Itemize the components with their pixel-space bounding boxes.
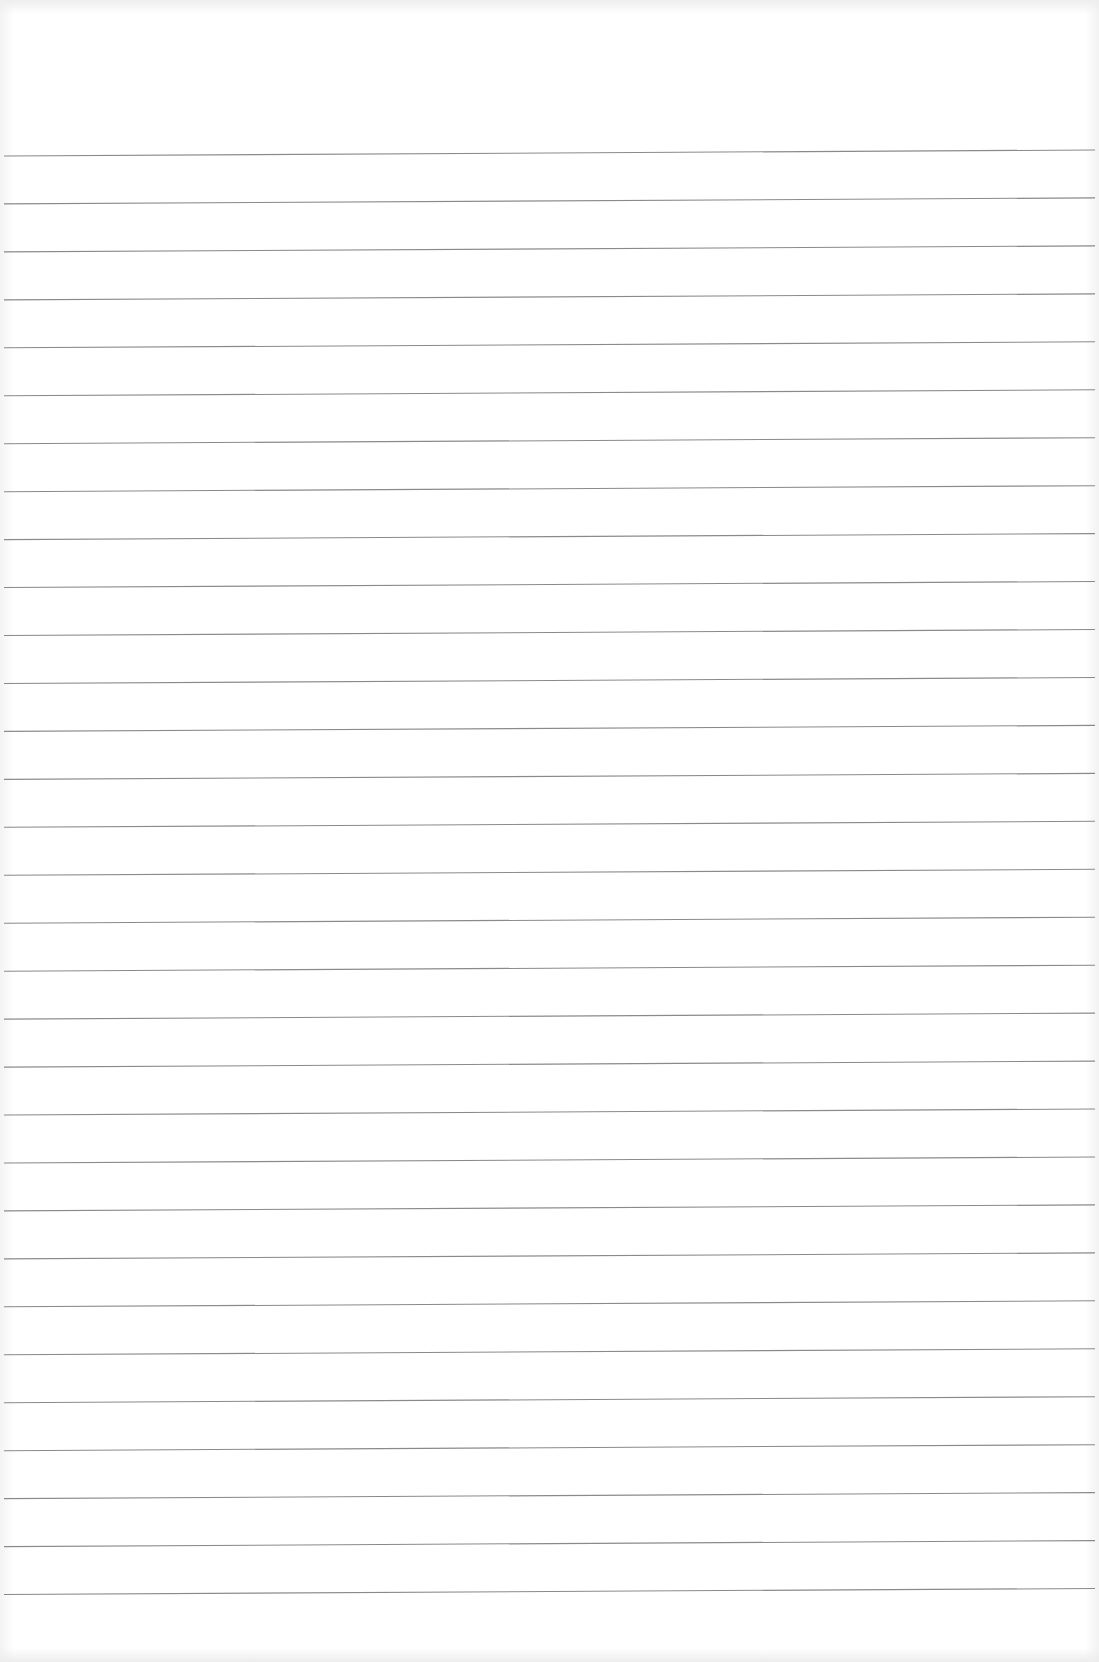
ruled-line [4, 678, 1095, 684]
ruled-line [4, 773, 1095, 779]
ruled-line [4, 1061, 1095, 1067]
ruled-line [4, 917, 1095, 923]
ruled-line [4, 869, 1095, 875]
ruled-line [4, 246, 1095, 252]
ruled-line [4, 1493, 1095, 1499]
ruled-line [4, 1109, 1095, 1115]
ruled-line [4, 390, 1095, 396]
ruled-line [4, 294, 1095, 300]
ruled-line [4, 1589, 1095, 1595]
ruled-line [4, 342, 1095, 348]
ruled-line [4, 725, 1095, 731]
ruled-line [4, 1157, 1095, 1163]
ruled-line [4, 1013, 1095, 1019]
ruled-line [4, 582, 1095, 588]
ruled-line [4, 965, 1095, 971]
ruled-line [4, 1445, 1095, 1451]
ruled-line [4, 1349, 1095, 1355]
ruled-line [4, 1397, 1095, 1403]
ruled-lines-svg [0, 0, 1099, 1662]
ruled-line [4, 534, 1095, 540]
ruled-line [4, 821, 1095, 827]
page-bottom-edge-shadow [0, 1648, 1099, 1662]
ruled-line [4, 486, 1095, 492]
ruled-line [4, 1205, 1095, 1211]
ruled-lines [0, 0, 1099, 1662]
ruled-line [4, 1541, 1095, 1547]
ruled-line [4, 630, 1095, 636]
ruled-line [4, 1301, 1095, 1307]
ruled-line [4, 150, 1095, 156]
ruled-line [4, 198, 1095, 204]
ruled-line [4, 1253, 1095, 1259]
ruled-line [4, 438, 1095, 444]
ruled-paper-page [0, 0, 1099, 1662]
